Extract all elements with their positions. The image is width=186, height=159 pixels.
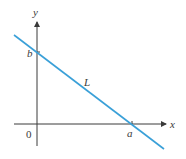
intercept-diagram: y x 0 b a L bbox=[0, 0, 186, 159]
y-intercept-label: b bbox=[27, 47, 33, 59]
x-axis-label: x bbox=[169, 118, 175, 130]
line-label: L bbox=[83, 76, 90, 88]
x-intercept-label: a bbox=[127, 127, 133, 139]
y-axis-label: y bbox=[32, 6, 38, 18]
origin-label: 0 bbox=[26, 128, 32, 140]
